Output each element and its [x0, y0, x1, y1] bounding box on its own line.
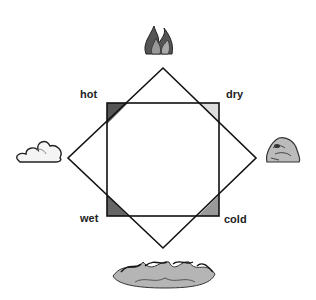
cold-corner-fill [198, 195, 219, 216]
fire-icon [145, 26, 173, 54]
hot-corner-fill [107, 103, 128, 124]
quality-label-hot: hot [80, 88, 97, 100]
rock-icon [267, 138, 300, 162]
dry-corner-fill [198, 103, 219, 124]
cloud-icon [17, 142, 61, 162]
elements-diagram [0, 0, 316, 300]
quality-label-wet: wet [80, 212, 98, 224]
qualities-square [107, 103, 219, 216]
quality-label-dry: dry [226, 88, 243, 100]
quality-label-cold: cold [224, 213, 247, 225]
water-waves-icon [113, 262, 215, 288]
